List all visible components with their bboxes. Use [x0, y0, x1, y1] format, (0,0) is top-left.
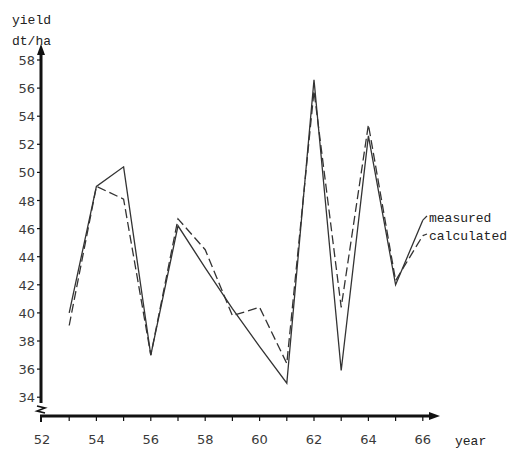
x-tick-label: 64 — [360, 432, 377, 447]
x-tick-label: 54 — [88, 432, 105, 447]
series-line-measured — [69, 80, 423, 384]
y-tick-label: 34 — [18, 390, 35, 405]
axis-break-icon — [37, 406, 45, 413]
series-line-calculated — [69, 91, 423, 364]
y-tick-label: 50 — [18, 165, 35, 180]
y-tick-label: 56 — [18, 81, 35, 96]
x-tick-label: 56 — [143, 432, 160, 447]
x-tick-label: 52 — [34, 432, 51, 447]
chart-canvas: 34363840424446485052545658 5254565860626… — [0, 0, 511, 464]
y-tick-label: 58 — [18, 53, 35, 68]
yield-chart: 34363840424446485052545658 5254565860626… — [0, 0, 511, 464]
x-axis-arrow-icon — [429, 412, 440, 420]
leader-line-calculated — [423, 234, 427, 236]
y-tick-label: 42 — [18, 278, 35, 293]
y-tick-label: 36 — [18, 362, 35, 377]
y-tick-label: 40 — [18, 306, 35, 321]
y-axis-label-yield: yield — [12, 13, 51, 28]
legend-label-calculated: calculated — [429, 229, 507, 244]
y-tick-label: 54 — [18, 109, 35, 124]
y-axis: 34363840424446485052545658 — [18, 44, 45, 413]
x-tick-label: 66 — [415, 432, 432, 447]
x-tick-label: 58 — [197, 432, 214, 447]
x-tick-label: 60 — [251, 432, 268, 447]
y-tick-label: 44 — [18, 250, 35, 265]
y-axis-label-unit: dt/ha — [12, 34, 51, 49]
x-axis: 5254565860626466 — [34, 412, 440, 447]
series-layer — [69, 80, 427, 384]
leader-line-measured — [423, 216, 427, 220]
y-tick-label: 38 — [18, 334, 35, 349]
x-tick-label: 62 — [306, 432, 323, 447]
legend-label-measured: measured — [429, 211, 491, 226]
y-tick-label: 52 — [18, 137, 35, 152]
y-tick-label: 46 — [18, 222, 35, 237]
x-axis-label-year: year — [455, 434, 486, 449]
y-tick-label: 48 — [18, 194, 35, 209]
